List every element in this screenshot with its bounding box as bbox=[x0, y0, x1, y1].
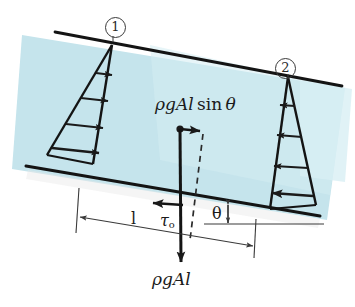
area-symbol: A bbox=[176, 94, 188, 114]
rho-symbol: ρ bbox=[152, 269, 162, 289]
node-two-circle: 2 bbox=[275, 58, 296, 79]
pressure-arrow-right-1 bbox=[280, 105, 295, 106]
incline-angle-label: θ bbox=[212, 206, 222, 222]
area-symbol: A bbox=[173, 269, 185, 289]
force-along-incline-label: ρgAl sin θ bbox=[155, 96, 236, 113]
tau-subscript: o bbox=[169, 219, 175, 230]
dimension-extension-right bbox=[254, 219, 256, 258]
length-symbol: l bbox=[188, 94, 193, 114]
figure-container: 1 2 ρgAl sin θ ρgAl l τo θ bbox=[0, 0, 355, 307]
weight-force-label: ρgAl bbox=[152, 271, 191, 288]
tau-symbol: τ bbox=[160, 211, 169, 230]
callout-label-node-two: 2 bbox=[275, 58, 296, 79]
weight-arrow-shaft bbox=[180, 129, 181, 262]
callout-label-node-one: 1 bbox=[105, 17, 126, 38]
g-symbol: g bbox=[165, 94, 176, 114]
dimension-extension-left bbox=[76, 188, 79, 233]
length-symbol: l bbox=[185, 269, 190, 289]
sin-operator: sin bbox=[197, 94, 222, 114]
shear-stress-label: τo bbox=[160, 213, 175, 230]
dimension-line-l-right-half bbox=[140, 227, 253, 246]
diagram-canvas bbox=[0, 0, 355, 307]
length-dimension-label: l bbox=[131, 211, 136, 227]
g-symbol: g bbox=[162, 269, 173, 289]
theta-symbol: θ bbox=[226, 94, 236, 114]
rho-symbol: ρ bbox=[155, 94, 165, 114]
node-one-circle: 1 bbox=[105, 17, 126, 38]
